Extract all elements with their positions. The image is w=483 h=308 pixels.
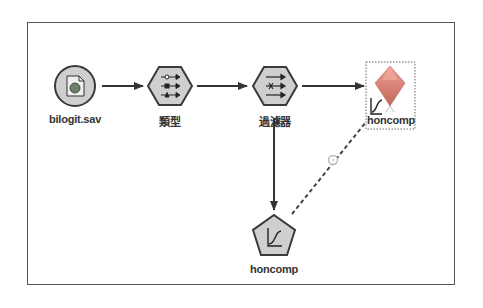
node-modeler-honcomp[interactable] xyxy=(253,215,295,255)
node-label-filter: 過濾器 xyxy=(259,113,291,129)
link-modeler-nugget-dashed[interactable] xyxy=(292,122,366,214)
node-label-source: bilogit.sav xyxy=(49,113,101,125)
node-label-model-nugget: honcomp xyxy=(367,114,415,126)
node-source-bilogit[interactable] xyxy=(55,66,95,106)
node-type[interactable] xyxy=(148,67,192,105)
refresh-link-icon xyxy=(329,156,338,165)
stream-diagram xyxy=(0,0,483,308)
node-filter[interactable] xyxy=(253,67,297,105)
spss-file-icon xyxy=(67,76,84,96)
node-label-type: 類型 xyxy=(159,113,181,129)
node-label-modeler: honcomp xyxy=(250,263,298,275)
